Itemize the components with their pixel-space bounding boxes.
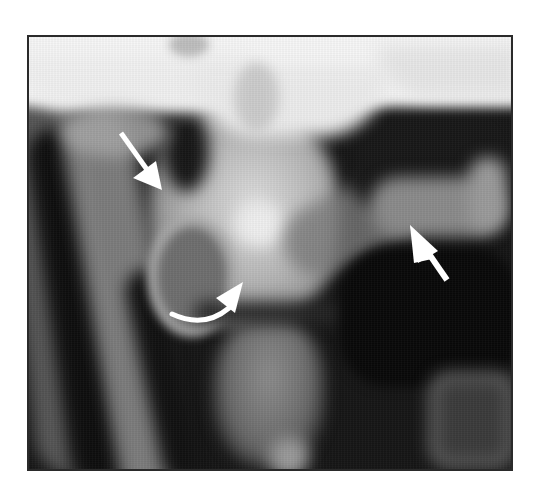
straight-arrow-down-right-icon xyxy=(121,133,162,190)
annotation-arrows xyxy=(29,37,511,469)
xray-image-frame xyxy=(27,35,513,471)
straight-arrow-up-left-icon xyxy=(410,225,447,280)
page xyxy=(0,0,535,494)
curved-arrow-up-right-icon xyxy=(172,282,243,320)
